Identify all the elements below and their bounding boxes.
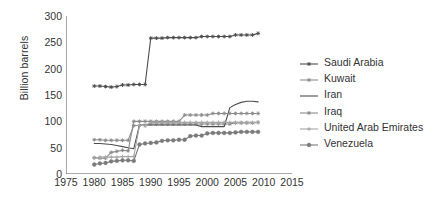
x-axis-tick-labels: 197519801985199019952000200520102015 <box>66 176 292 192</box>
x-tick-1995: 1995 <box>167 176 190 188</box>
y-tick-300: 300 <box>44 10 62 22</box>
legend-marker-none-icon <box>299 88 319 100</box>
x-tick-1985: 1985 <box>111 176 134 188</box>
data-point <box>234 130 238 134</box>
series-iran <box>94 101 258 148</box>
data-point <box>239 130 243 134</box>
x-tick-2000: 2000 <box>196 176 219 188</box>
chart-canvas <box>66 16 292 174</box>
legend-item-saudi-arabia[interactable]: Saudi Arabia <box>299 54 437 70</box>
data-point <box>205 132 209 136</box>
data-point <box>251 130 255 134</box>
data-point <box>121 158 125 162</box>
data-point <box>256 130 260 134</box>
data-point <box>194 134 198 138</box>
legend-marker-star-icon <box>299 72 319 84</box>
legend-label: Kuwait <box>324 72 356 84</box>
legend-marker-star-icon <box>299 105 319 117</box>
legend-marker-star-icon <box>299 56 319 68</box>
plot-area <box>66 16 292 174</box>
legend-label: Iraq <box>324 105 342 117</box>
chart-root: Billion barrels 050100150200250300 19751… <box>0 0 437 206</box>
y-axis-tick-labels: 050100150200250300 <box>30 16 62 174</box>
y-tick-150: 150 <box>44 89 62 101</box>
y-tick-200: 200 <box>44 63 62 75</box>
legend-label: Venezuela <box>324 137 373 149</box>
legend-item-united-arab-emirates[interactable]: United Arab Emirates <box>299 119 437 135</box>
x-tick-1980: 1980 <box>83 176 106 188</box>
x-tick-2015: 2015 <box>280 176 303 188</box>
series-line <box>94 33 258 87</box>
data-point <box>222 131 226 135</box>
data-point <box>171 138 175 142</box>
data-point <box>126 158 130 162</box>
data-point <box>200 134 204 138</box>
data-point <box>160 139 164 143</box>
legend-label: United Arab Emirates <box>324 121 423 133</box>
legend-label: Saudi Arabia <box>324 56 384 68</box>
data-point <box>245 130 249 134</box>
legend-label: Iran <box>324 88 342 100</box>
data-point <box>307 143 311 147</box>
series-line <box>94 113 258 158</box>
y-axis-label: Billion barrels <box>18 0 30 138</box>
data-point <box>109 159 113 163</box>
y-tick-50: 50 <box>50 142 62 154</box>
series-saudi-arabia <box>92 31 260 89</box>
data-point <box>98 162 102 166</box>
legend-marker-circle-icon <box>299 137 319 149</box>
x-tick-2010: 2010 <box>252 176 275 188</box>
x-tick-2005: 2005 <box>224 176 247 188</box>
legend-item-iraq[interactable]: Iraq <box>299 103 437 119</box>
data-point <box>104 161 108 165</box>
legend-item-kuwait[interactable]: Kuwait <box>299 70 437 86</box>
data-point <box>228 131 232 135</box>
series-line <box>94 132 258 165</box>
series-line <box>94 101 258 148</box>
legend-item-iran[interactable]: Iran <box>299 86 437 102</box>
chart-legend: Saudi ArabiaKuwaitIranIraqUnited Arab Em… <box>299 54 437 151</box>
data-point <box>92 163 96 167</box>
data-point <box>211 131 215 135</box>
data-point <box>217 131 221 135</box>
y-tick-100: 100 <box>44 115 62 127</box>
data-point <box>132 159 136 163</box>
x-tick-1975: 1975 <box>54 176 77 188</box>
data-point <box>149 141 153 145</box>
data-point <box>143 142 147 146</box>
data-point <box>115 159 119 163</box>
legend-marker-plus-icon <box>299 121 319 133</box>
data-point <box>177 138 181 142</box>
data-point <box>183 138 187 142</box>
data-point <box>155 141 159 145</box>
data-point <box>138 143 142 147</box>
x-tick-1990: 1990 <box>139 176 162 188</box>
legend-item-venezuela[interactable]: Venezuela <box>299 135 437 151</box>
data-point <box>166 138 170 142</box>
series-iraq <box>92 112 260 161</box>
y-tick-250: 250 <box>44 36 62 48</box>
data-point <box>188 134 192 138</box>
series-venezuela <box>92 130 260 166</box>
